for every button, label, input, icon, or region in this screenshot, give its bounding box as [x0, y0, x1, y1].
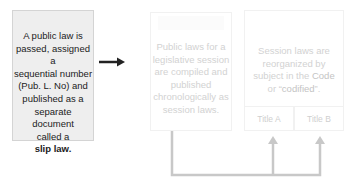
step-text-line: Session laws are: [245, 45, 343, 58]
arrow-right-icon: [99, 58, 125, 67]
step-text-line: reorganized by: [245, 58, 343, 71]
slip-law-term: slip law.: [13, 143, 93, 156]
step-text-line: are compiled and: [151, 66, 231, 79]
step-text-line: sequential number: [13, 68, 93, 81]
text-fragment: subject in the: [253, 70, 312, 81]
step-text-line: subject in the Code: [245, 70, 343, 83]
title-a-label: Title A: [257, 114, 280, 124]
step-text-line: or “codified”.: [245, 83, 343, 96]
bracket-connector: [172, 131, 320, 175]
step-text-line: A public law is: [13, 30, 93, 43]
step-slip-law: A public law is passed, assigned a seque…: [12, 10, 94, 141]
step-session-laws: Public laws for a legislative session ar…: [150, 12, 232, 131]
step-text-line: (Pub. L. No) and: [13, 80, 93, 93]
code-term: Code: [312, 70, 335, 81]
title-a-box: Title A: [244, 106, 294, 131]
step-text-line: chronologically as: [151, 91, 231, 104]
step-text-line: published: [151, 79, 231, 92]
title-b-box: Title B: [294, 106, 344, 131]
arrow-up-icon: [315, 136, 325, 144]
step-text-line: session laws.: [151, 104, 231, 117]
text-fragment: ”.: [315, 83, 321, 94]
text-fragment: or “: [268, 83, 282, 94]
step-text-line: Public laws for a: [151, 41, 231, 54]
step-text-line: passed, assigned a: [13, 43, 93, 68]
step-text-line: published as a: [13, 93, 93, 106]
step-text-line: called a: [13, 131, 93, 144]
arrow-up-icon: [268, 136, 278, 144]
title-b-label: Title B: [307, 114, 331, 124]
step-text-line: separate document: [13, 106, 93, 131]
codified-term: codified: [282, 83, 315, 94]
step-text-line: legislative session: [151, 54, 231, 67]
